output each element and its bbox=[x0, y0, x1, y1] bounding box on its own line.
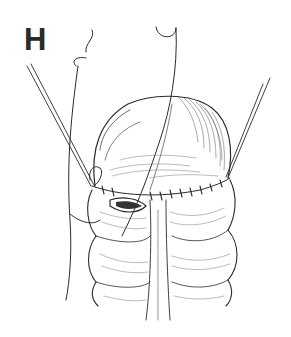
left-stay-suture bbox=[27, 64, 94, 186]
surgical-illustration bbox=[0, 0, 291, 337]
right-stay-suture bbox=[226, 78, 270, 178]
upper-bowel-dome bbox=[94, 96, 231, 190]
anastomosis-opening bbox=[110, 198, 146, 212]
anastomosis-suture-line bbox=[92, 178, 230, 200]
left-knot bbox=[70, 167, 102, 223]
